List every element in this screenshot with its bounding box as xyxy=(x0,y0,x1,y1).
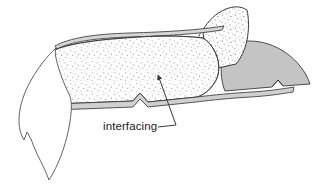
diagram-canvas: interfacing xyxy=(0,0,321,184)
interfaced-fabric-panel xyxy=(44,36,219,104)
main-body-stipple-overlay xyxy=(44,36,219,104)
interfacing-diagram-figure: interfacing xyxy=(0,0,321,184)
interfacing-label: interfacing xyxy=(103,120,157,132)
